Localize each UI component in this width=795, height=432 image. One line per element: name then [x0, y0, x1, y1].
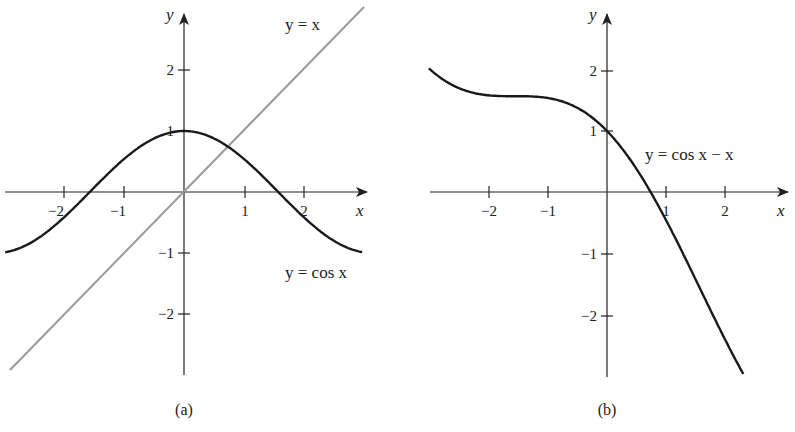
y-tick-label: −1: [158, 245, 174, 261]
label-y-cos-x-minus-x: y = cos x − x: [645, 145, 734, 164]
x-axis-label: x: [355, 201, 364, 220]
x-axis-label: x: [776, 201, 785, 220]
x-tick-label: 2: [721, 203, 729, 219]
curve-cos-x-minus-x: [429, 68, 744, 374]
y-tick-label: −1: [581, 246, 597, 262]
y-tick-label: 1: [590, 123, 598, 139]
panel-b: −2 −1 1 2 2 1 −1 −2 x y y = cos x − x (b…: [429, 5, 788, 419]
label-y-equals-x: y = x: [285, 15, 321, 34]
panel-a: −2 −1 1 2 2 1 −1 −2 x y y = x y = cos x …: [5, 5, 367, 419]
label-y-cos-x: y = cos x: [285, 263, 347, 282]
x-tick-label: −1: [540, 203, 556, 219]
caption-b: (b): [598, 401, 617, 419]
x-tick-label: −2: [48, 203, 64, 219]
y-tick-label: −2: [158, 306, 174, 322]
caption-a: (a): [175, 401, 193, 419]
x-tick-label: −1: [110, 203, 126, 219]
y-axis-label: y: [587, 5, 597, 24]
y-tick-label: −2: [581, 308, 597, 324]
x-tick-label: −2: [481, 203, 497, 219]
y-tick-label: 2: [590, 63, 598, 79]
y-axis-label: y: [164, 5, 174, 24]
line-y-equals-x: [10, 7, 364, 370]
figure: −2 −1 1 2 2 1 −1 −2 x y y = x y = cos x …: [0, 0, 795, 432]
y-tick-label: 2: [167, 62, 175, 78]
x-tick-label: 1: [241, 203, 249, 219]
